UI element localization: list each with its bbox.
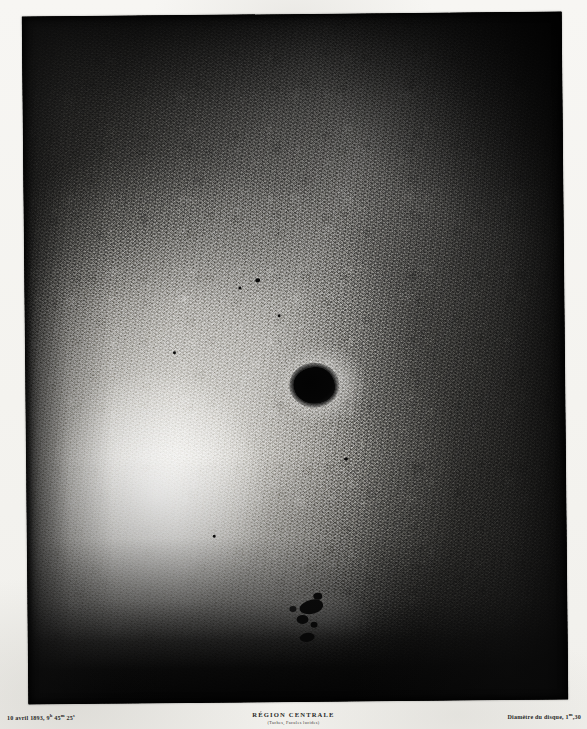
bright-diagonal-band bbox=[22, 11, 569, 704]
pore-speck bbox=[344, 457, 348, 460]
pore-speck bbox=[173, 351, 176, 354]
scale-value: ,30 bbox=[573, 714, 581, 720]
secondary-sunspot-5 bbox=[299, 632, 315, 643]
pore-speck bbox=[213, 535, 216, 538]
plate-edge-shadow bbox=[22, 11, 569, 704]
plate-subtitle: (Taches, Facules lucides) bbox=[0, 720, 587, 725]
secondary-sunspot-2 bbox=[313, 593, 322, 600]
pore-speck bbox=[278, 314, 281, 317]
pore-speck bbox=[238, 287, 241, 290]
lower-faculae-glow bbox=[22, 11, 569, 704]
emulsion-grain-fine bbox=[22, 11, 569, 704]
secondary-sunspot-3 bbox=[296, 615, 308, 624]
main-sunspot-halo bbox=[263, 329, 382, 438]
secondary-sunspot-6 bbox=[289, 606, 296, 612]
secondary-group-halo bbox=[263, 579, 388, 662]
plate-emulsion bbox=[22, 11, 569, 704]
plate-vignette-top bbox=[22, 11, 569, 704]
plate-vignette-right bbox=[22, 11, 569, 704]
plate-title-caption: RÉGION CENTRALE (Taches, Facules lucides… bbox=[0, 711, 587, 725]
disc-diameter-caption: Diamètre du disque, 1m,30 bbox=[507, 712, 581, 720]
emulsion-grain-coarse bbox=[22, 11, 569, 704]
granulation-mottling bbox=[22, 11, 569, 704]
plate-vignette-corner bbox=[22, 11, 569, 704]
scale-label: Diamètre du disque, 1 bbox=[507, 714, 568, 720]
secondary-sunspot-1 bbox=[298, 597, 324, 616]
faculae-bright-region bbox=[22, 11, 569, 704]
main-sunspot-umbra bbox=[293, 367, 335, 404]
emulsion-grain-speckle bbox=[22, 11, 569, 704]
plate-vignette-bottom bbox=[22, 11, 569, 704]
pore-speck bbox=[255, 278, 260, 282]
solar-disc-luminance bbox=[22, 11, 569, 704]
plate-title: RÉGION CENTRALE bbox=[0, 711, 587, 718]
photographic-plate bbox=[22, 11, 569, 704]
plate-vignette-left bbox=[22, 11, 569, 704]
secondary-sunspot-4 bbox=[311, 622, 318, 628]
main-sunspot-penumbra bbox=[289, 363, 339, 408]
plate-page: 10 avril 1893, 9h 45m 25s RÉGION CENTRAL… bbox=[0, 0, 587, 729]
